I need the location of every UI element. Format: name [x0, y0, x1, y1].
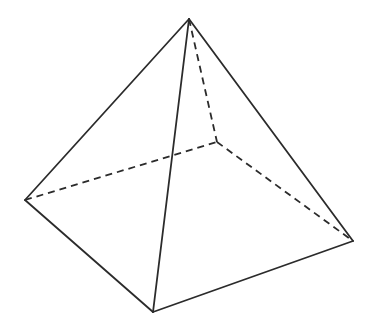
- hidden-edge-left-back: [25, 142, 217, 200]
- visible-edge-front-right: [153, 241, 353, 312]
- visible-edge-apex-left: [25, 19, 189, 200]
- visible-edges: [25, 19, 353, 312]
- hidden-edge-back-right: [217, 142, 353, 241]
- visible-edge-apex-front: [153, 19, 189, 312]
- pyramid-diagram: [0, 0, 384, 319]
- hidden-edges: [25, 19, 353, 241]
- visible-edge-left-front: [25, 200, 153, 312]
